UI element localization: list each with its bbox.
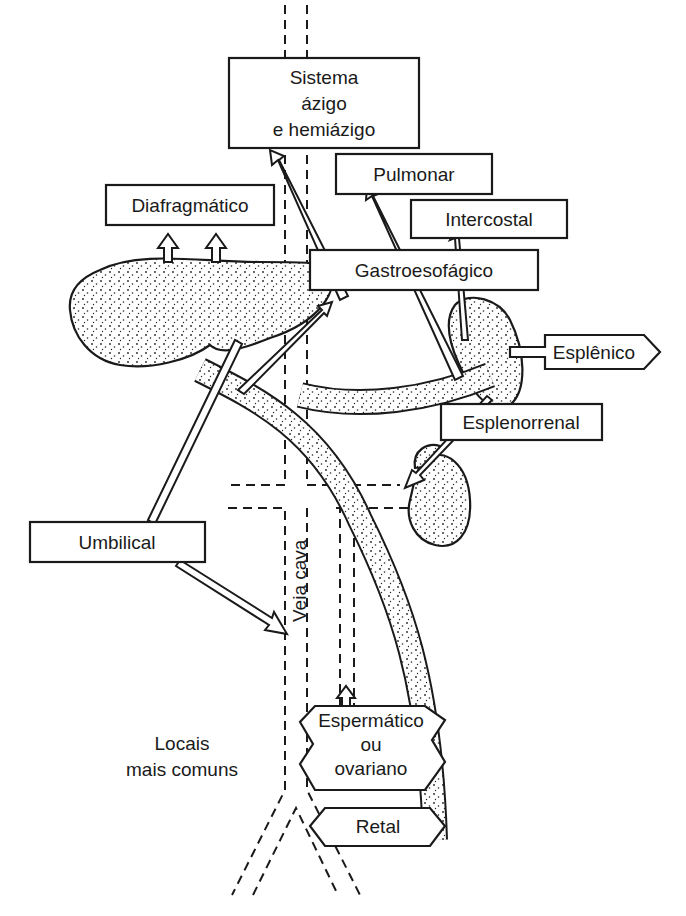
legend: Locais mais comuns	[126, 733, 238, 780]
diaphragmatic-label: Diafragmático	[131, 195, 248, 216]
gastroesophageal-box: Gastroesofágico	[310, 250, 538, 290]
pulmonary-box: Pulmonar	[336, 154, 492, 194]
portosystemic-collaterals-diagram: Sistema ázigo e hemiázigo Pulmonar Diafr…	[0, 0, 686, 916]
umbilical-arrow-up	[148, 340, 242, 524]
splenic-box: Esplênico	[510, 335, 660, 369]
azygos-label-3: e hemiázigo	[273, 119, 375, 140]
splenorenal-label: Esplenorrenal	[462, 412, 579, 433]
legend-line-2: mais comuns	[126, 759, 238, 780]
umbilical-arrow-down	[176, 560, 287, 634]
azygos-box: Sistema ázigo e hemiázigo	[229, 58, 419, 148]
intercostal-label: Intercostal	[445, 209, 533, 230]
vena-cava-label: Veia cava	[289, 539, 310, 622]
azygos-label-2: ázigo	[301, 93, 346, 114]
gastroesophageal-label: Gastroesofágico	[355, 260, 493, 281]
azygos-label-1: Sistema	[290, 67, 359, 88]
umbilical-box: Umbilical	[30, 522, 205, 562]
diaphragmatic-box: Diafragmático	[106, 185, 274, 225]
rectal-box: Retal	[310, 808, 445, 846]
spermatic-label-2: ou	[360, 734, 381, 755]
spermatic-ovarian-box: Espermático ou ovariano	[300, 706, 445, 790]
splenic-label: Esplênico	[553, 342, 635, 363]
spermatic-label-1: Espermático	[318, 710, 424, 731]
pulmonary-label: Pulmonar	[373, 164, 455, 185]
spermatic-label-3: ovariano	[335, 758, 408, 779]
rectal-label: Retal	[356, 816, 400, 837]
intercostal-box: Intercostal	[411, 200, 567, 238]
diaphragmatic-arrow-2	[206, 234, 226, 262]
umbilical-label: Umbilical	[78, 532, 155, 553]
liver-shape	[70, 258, 333, 366]
splenorenal-box: Esplenorrenal	[441, 404, 602, 440]
legend-line-1: Locais	[155, 733, 210, 754]
